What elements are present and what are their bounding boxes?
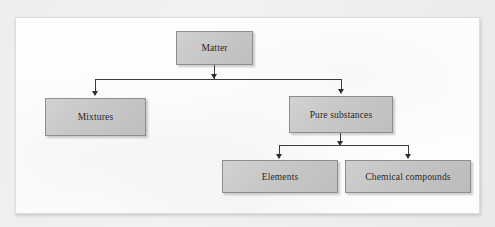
arrowhead-elements-icon xyxy=(276,154,282,159)
arrowhead-chemical-compounds-icon xyxy=(405,154,411,159)
node-pure-substances-label: Pure substances xyxy=(310,110,373,120)
node-elements: Elements xyxy=(222,160,338,193)
page-background: Matter Mixtures Pure substances Elements… xyxy=(0,0,495,227)
node-matter: Matter xyxy=(176,31,253,65)
node-mixtures-label: Mixtures xyxy=(78,112,114,122)
connector-pure-substances-bus xyxy=(279,145,408,146)
node-pure-substances: Pure substances xyxy=(289,96,393,133)
node-chemical-compounds-label: Chemical compounds xyxy=(365,172,450,182)
node-matter-label: Matter xyxy=(201,43,227,53)
node-chemical-compounds: Chemical compounds xyxy=(345,160,471,193)
arrowhead-mixtures-icon xyxy=(92,91,98,96)
node-elements-label: Elements xyxy=(262,172,299,182)
connector-matter-bus xyxy=(95,79,341,80)
arrowhead-pure-substances-icon xyxy=(338,89,344,94)
node-mixtures: Mixtures xyxy=(45,98,146,136)
